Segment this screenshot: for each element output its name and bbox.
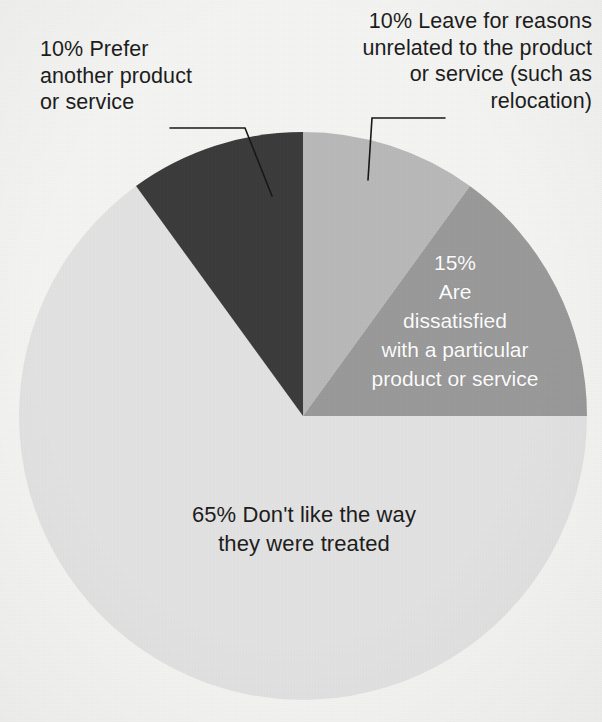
slice-label-leave-unrelated: 10% Leave for reasons unrelated to the p… [296,8,592,114]
slice-label-prefer-another: 10% Prefer another product or service [40,36,266,116]
pie-slices [19,132,587,700]
chart-canvas: 10% Prefer another product or service 10… [0,0,602,722]
slice-label-treated: 65% Don't like the way they were treated [118,500,490,558]
slice-label-dissatisfied: 15% Are dissatisfied with a particular p… [352,248,558,393]
